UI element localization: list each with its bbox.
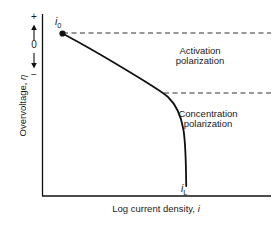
eta-symbol: η [17, 75, 28, 80]
activation-polarization-label: Activation polarization [152, 46, 248, 66]
y-axis-label: Overvoltage, η [17, 46, 28, 166]
iL-label: iL [181, 183, 188, 197]
arrow-down-icon [31, 53, 37, 69]
arrow-up-icon [31, 25, 37, 41]
concentration-polarization-label: Concentration polarization [153, 109, 263, 129]
polarization-figure: + 0 − i0 iL Activation polarization Conc… [0, 0, 277, 232]
concentration-polarization-line2: polarization [153, 119, 263, 129]
y-axis-minus-symbol: − [28, 70, 40, 81]
i0-label: i0 [55, 16, 62, 30]
x-axis-label: Log current density, i [42, 203, 270, 214]
x-axis-label-text: Log current density, [112, 203, 197, 214]
i0-subscript: 0 [57, 21, 61, 30]
i0-point-marker [59, 30, 65, 36]
y-axis-plus-symbol: + [28, 12, 40, 23]
y-axis-label-text: Overvoltage, [17, 80, 28, 137]
y-axis-zero-symbol: 0 [28, 40, 40, 51]
iL-subscript: L [183, 188, 187, 197]
activation-polarization-line2: polarization [152, 56, 248, 66]
current-symbol: i [198, 203, 200, 214]
